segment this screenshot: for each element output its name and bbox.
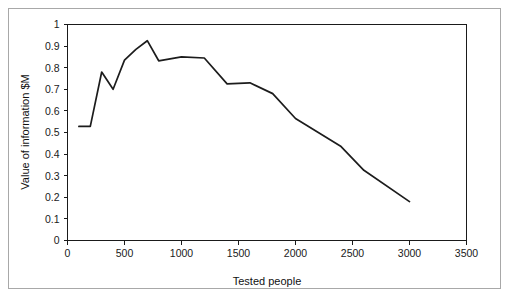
- y-tick-label: 1: [54, 18, 60, 30]
- x-tick-label: 3000: [398, 247, 422, 259]
- x-tick-label: 1500: [227, 247, 251, 259]
- x-tick-label: 500: [116, 247, 134, 259]
- y-tick-label: 0.5: [45, 126, 60, 138]
- y-tick-label: 0.6: [45, 105, 60, 117]
- y-tick-label: 0.8: [45, 62, 60, 74]
- y-tick-label: 0.1: [45, 213, 60, 225]
- x-tick-label: 2000: [284, 247, 308, 259]
- figure-root: 00.10.20.30.40.50.60.70.80.91 0500100015…: [0, 0, 513, 301]
- y-tick-label: 0.2: [45, 191, 60, 203]
- y-tick-label: 0: [54, 234, 60, 246]
- x-tick-label: 1000: [170, 247, 194, 259]
- y-tick-label: 0.7: [45, 83, 60, 95]
- data-series-line: [79, 41, 410, 202]
- x-tick-label: 0: [65, 247, 71, 259]
- x-tick-label: 2500: [341, 247, 365, 259]
- x-axis-ticks: 0500100015002000250030003500: [65, 241, 479, 259]
- y-tick-label: 0.3: [45, 170, 60, 182]
- y-tick-label: 0.4: [45, 148, 60, 160]
- x-tick-label: 3500: [455, 247, 479, 259]
- y-tick-label: 0.9: [45, 40, 60, 52]
- x-axis-title: Tested people: [233, 275, 302, 287]
- line-chart: 00.10.20.30.40.50.60.70.80.91 0500100015…: [0, 0, 513, 301]
- y-axis-title: Value of information $M: [19, 74, 31, 189]
- y-axis-ticks: 00.10.20.30.40.50.60.70.80.91: [45, 18, 68, 246]
